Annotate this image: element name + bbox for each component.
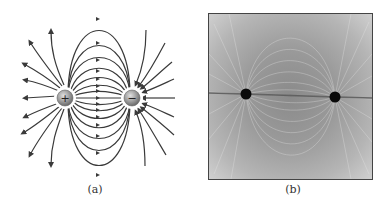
- negative-charge: −: [121, 87, 143, 109]
- positive-charge: +: [54, 87, 76, 109]
- panel-a-field-lines: + − (a): [0, 0, 200, 210]
- svg-text:+: +: [60, 92, 69, 105]
- electrode-left: [241, 89, 252, 100]
- panel-b-photograph: (b): [200, 0, 387, 210]
- svg-text:−: −: [127, 92, 136, 105]
- caption-b: (b): [278, 183, 308, 196]
- grass-seed-photo: [208, 13, 373, 180]
- electrode-right: [330, 92, 341, 103]
- dipole-field-diagram: + −: [0, 0, 200, 200]
- caption-a: (a): [80, 183, 110, 196]
